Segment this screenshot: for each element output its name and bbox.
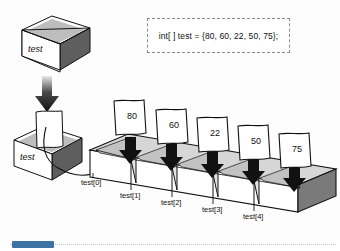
array-diagram: int[ ] test = {80, 60, 22, 50, 75}; test… [0,0,340,251]
card-value-2: 22 [203,128,227,138]
index-label-0: test[0] [81,178,101,187]
index-label-4: test[4] [243,212,263,221]
index-label-1: test[1] [120,191,140,200]
code-text: int[ ] test = {80, 60, 22, 50, 75}; [159,31,279,41]
progress-chip[interactable] [12,241,54,248]
code-box: int[ ] test = {80, 60, 22, 50, 75}; [147,18,290,53]
big-down-arrow [35,76,59,112]
index-label-3: test[3] [202,205,222,214]
card-value-0: 80 [120,111,144,121]
card-value-1: 60 [162,120,186,130]
empty-box-label: test [28,44,43,54]
index-label-2: test[2] [161,198,181,207]
bottom-bar [0,240,340,251]
card-value-4: 75 [285,144,309,154]
filled-box-label: test [20,152,35,162]
card-value-3: 50 [244,136,268,146]
filled-box-shape [14,111,96,180]
bottom-divider [10,244,336,246]
